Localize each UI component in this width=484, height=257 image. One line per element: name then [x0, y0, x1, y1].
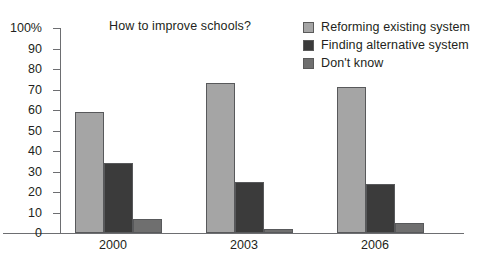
plot-area: 0102030405060708090100% 200020032006 [60, 28, 464, 233]
bar [104, 163, 133, 233]
y-axis-tick-label: 30 [28, 165, 42, 179]
bar [235, 182, 264, 233]
bar [133, 219, 162, 233]
y-axis-tick-label: 90 [28, 42, 42, 56]
y-axis-tick: 90 [53, 49, 60, 50]
y-axis-tick-label: 100% [10, 21, 42, 35]
bar [75, 112, 104, 233]
x-axis-label: 2006 [325, 238, 425, 252]
y-axis-tick: 50 [53, 131, 60, 132]
y-axis-tick-label: 0 [35, 226, 42, 240]
x-axis-line [3, 233, 464, 234]
bar-chart: How to improve schools? Reforming existi… [0, 0, 484, 257]
y-axis-tick-label: 20 [28, 185, 42, 199]
bar-group [206, 28, 293, 233]
bar-group [337, 28, 424, 233]
bar [337, 87, 366, 233]
bar-group [75, 28, 162, 233]
x-axis-label: 2000 [63, 238, 163, 252]
y-axis-tick: 80 [53, 69, 60, 70]
bar [206, 83, 235, 233]
y-axis-tick: 10 [53, 213, 60, 214]
x-axis-label: 2003 [194, 238, 294, 252]
y-axis-tick-label: 60 [28, 103, 42, 117]
y-axis-tick-label: 10 [28, 206, 42, 220]
y-axis-tick-label: 80 [28, 62, 42, 76]
y-axis-tick: 30 [53, 172, 60, 173]
y-axis-tick: 0 [53, 233, 60, 234]
y-axis-tick: 70 [53, 90, 60, 91]
y-axis-tick: 40 [53, 151, 60, 152]
y-axis-line [60, 28, 61, 233]
bar [264, 229, 293, 233]
y-axis-tick-label: 40 [28, 144, 42, 158]
y-axis-tick-label: 50 [28, 124, 42, 138]
y-axis-tick-label: 70 [28, 83, 42, 97]
y-axis-tick: 100% [53, 28, 60, 29]
bar [395, 223, 424, 233]
y-axis-tick: 20 [53, 192, 60, 193]
y-axis-tick: 60 [53, 110, 60, 111]
bar [366, 184, 395, 233]
